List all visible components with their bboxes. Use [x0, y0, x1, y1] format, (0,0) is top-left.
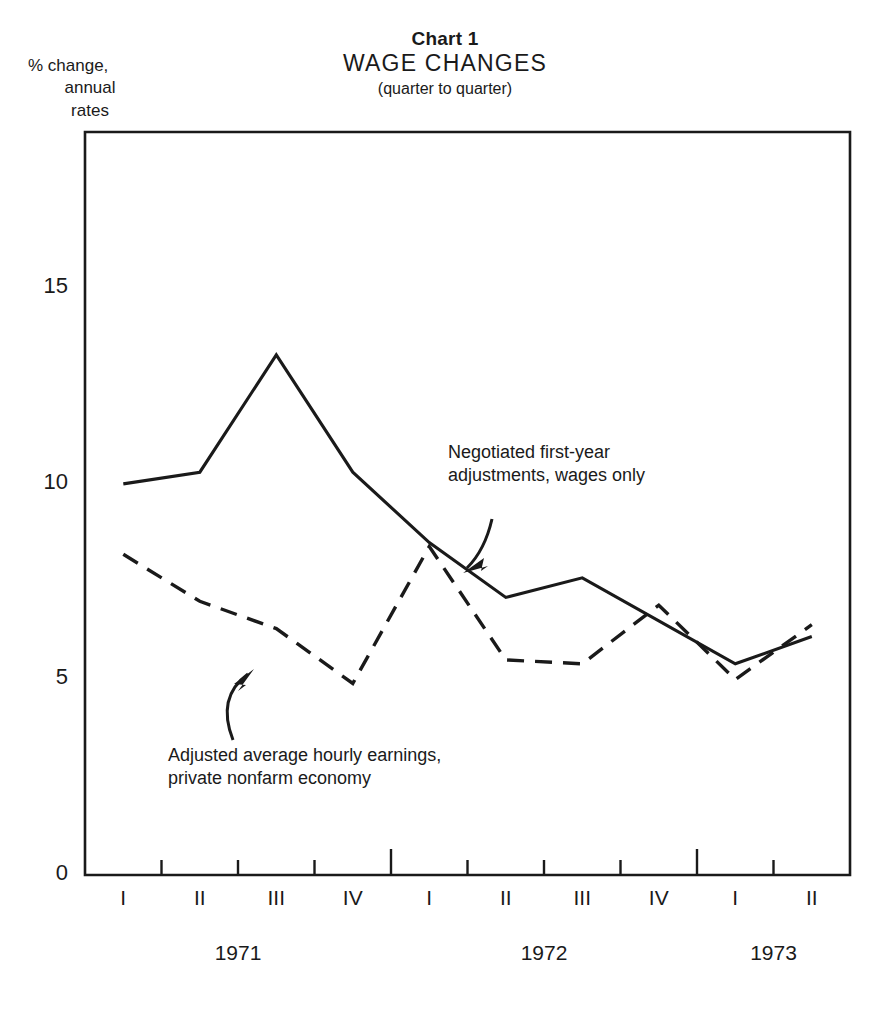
x-axis-year-label: 1972: [484, 941, 604, 965]
x-axis-quarter-label: II: [782, 886, 842, 910]
x-axis-quarter-label: I: [93, 886, 153, 910]
x-axis-quarter-label: IV: [629, 886, 689, 910]
y-axis-tick-label: 0: [18, 860, 68, 886]
annotation-earnings-line-1: Adjusted average hourly earnings,: [168, 744, 441, 767]
x-axis-quarter-label: I: [399, 886, 459, 910]
x-axis-year-label: 1971: [178, 941, 298, 965]
series-group: [123, 355, 812, 684]
annotation-arrows: [227, 519, 492, 740]
annotation-earnings: Adjusted average hourly earnings, privat…: [168, 744, 441, 790]
x-axis-quarter-label: IV: [323, 886, 383, 910]
chart-plot-area: [0, 0, 889, 1017]
annotation-negotiated-line-1: Negotiated first-year: [448, 441, 645, 464]
series-line-negotiated: [123, 355, 812, 664]
arrow-negotiated-icon: [467, 519, 492, 568]
wage-changes-line-chart: [0, 0, 889, 1017]
annotation-negotiated: Negotiated first-year adjustments, wages…: [448, 441, 645, 487]
annotation-earnings-line-2: private nonfarm economy: [168, 767, 441, 790]
x-axis-quarter-label: III: [552, 886, 612, 910]
y-axis-tick-label: 5: [18, 664, 68, 690]
x-axis-quarter-label: I: [705, 886, 765, 910]
x-axis-ticks: [162, 849, 774, 875]
x-axis-quarter-label: II: [476, 886, 536, 910]
x-axis-year-label: 1973: [714, 941, 834, 965]
x-axis-quarter-label: III: [246, 886, 306, 910]
y-axis-tick-label: 15: [18, 273, 68, 299]
annotation-negotiated-line-2: adjustments, wages only: [448, 464, 645, 487]
x-axis-quarter-label: II: [170, 886, 230, 910]
y-axis-tick-label: 10: [18, 469, 68, 495]
arrow-earnings-head-icon: [234, 669, 254, 691]
